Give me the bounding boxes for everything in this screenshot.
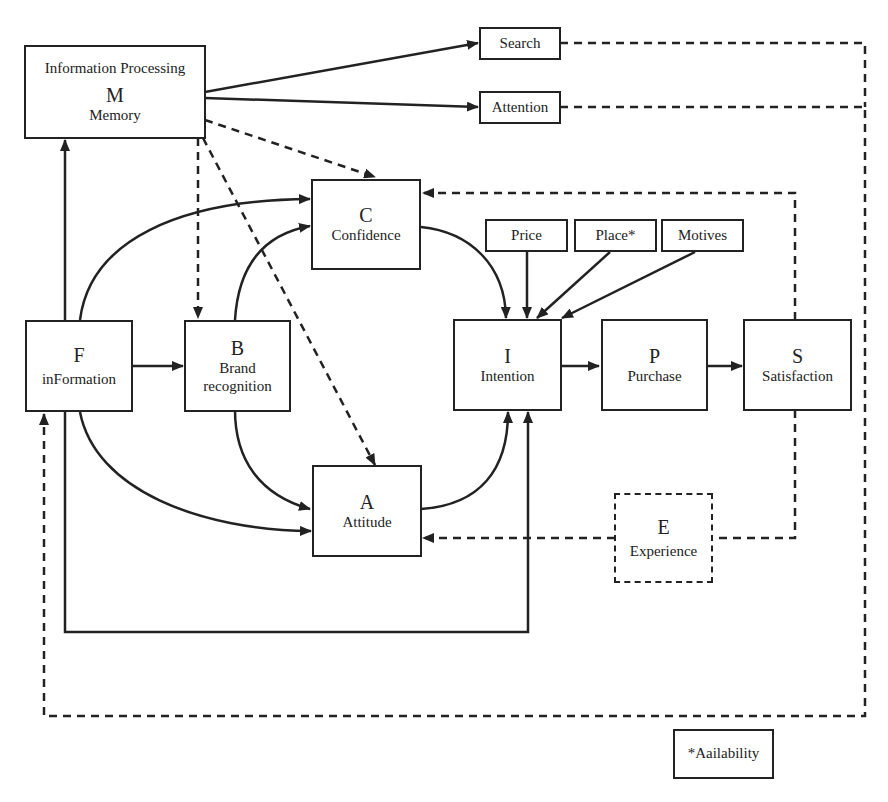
confidence-letter: C — [359, 204, 372, 227]
node-brand-recognition: B Brand recognition — [184, 320, 291, 412]
edge-memory-attention — [205, 98, 478, 107]
experience-letter: E — [657, 516, 669, 539]
edge-attitude-intention — [421, 412, 508, 509]
attitude-label: Attitude — [342, 514, 391, 531]
edge-search-loop — [560, 43, 865, 107]
consumer-behavior-diagram: Information Processing M Memory Search A… — [0, 0, 888, 802]
edge-attention-information — [44, 107, 865, 716]
brand-label-line2: recognition — [203, 378, 271, 395]
node-experience: E Experience — [614, 493, 713, 583]
confidence-label: Confidence — [331, 227, 400, 244]
intention-letter: I — [504, 345, 511, 368]
satisfaction-label: Satisfaction — [762, 368, 833, 385]
node-memory: Information Processing M Memory — [24, 45, 206, 139]
edge-brand-attitude — [235, 410, 310, 509]
place-label: Place* — [596, 227, 636, 244]
node-place: Place* — [574, 219, 657, 252]
node-intention: I Intention — [453, 319, 562, 411]
brand-label-line1: Brand — [219, 360, 256, 377]
purchase-letter: P — [649, 345, 660, 368]
edge-memory-search — [205, 43, 478, 92]
motives-label: Motives — [678, 227, 727, 244]
edge-place-intention — [537, 252, 610, 318]
experience-label: Experience — [630, 543, 697, 560]
search-label: Search — [500, 35, 541, 52]
edge-memory-confidence — [205, 120, 375, 177]
edge-satisfaction-confidence — [423, 193, 795, 320]
memory-label: Memory — [89, 107, 141, 124]
node-confidence: C Confidence — [311, 179, 421, 270]
availability-label: *Aailability — [688, 745, 760, 762]
attention-label: Attention — [492, 99, 549, 116]
node-satisfaction: S Satisfaction — [743, 319, 852, 411]
satisfaction-letter: S — [792, 345, 803, 368]
edge-brand-confidence — [235, 226, 310, 320]
memory-title: Information Processing — [45, 60, 185, 77]
node-price: Price — [485, 219, 568, 252]
purchase-label: Purchase — [627, 368, 681, 385]
node-attitude: A Attitude — [312, 465, 422, 557]
node-motives: Motives — [661, 219, 744, 252]
edge-information-attitude — [80, 412, 311, 531]
price-label: Price — [511, 227, 542, 244]
node-purchase: P Purchase — [601, 319, 708, 411]
attitude-letter: A — [360, 491, 374, 514]
brand-letter: B — [231, 337, 244, 360]
memory-letter: M — [106, 84, 124, 107]
node-information: F inFormation — [25, 320, 133, 412]
edge-information-intention — [65, 412, 528, 632]
availability-footnote: *Aailability — [673, 729, 774, 779]
edge-motives-intention — [562, 252, 695, 318]
intention-label: Intention — [480, 368, 534, 385]
node-attention: Attention — [479, 91, 561, 124]
information-letter: F — [73, 344, 84, 367]
edge-satisfaction-experience — [713, 410, 795, 538]
node-search: Search — [479, 27, 561, 60]
information-label: inFormation — [42, 371, 116, 388]
edge-information-confidence — [80, 199, 310, 320]
